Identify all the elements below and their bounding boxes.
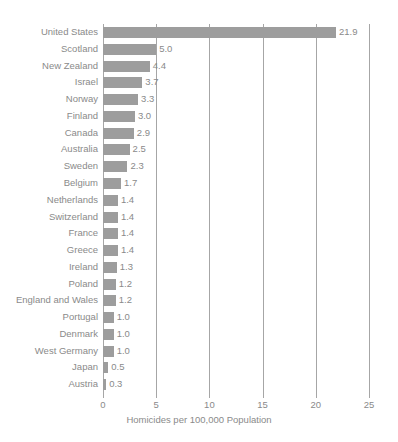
bar-value-label: 2.9 — [137, 126, 150, 140]
bar — [103, 346, 114, 357]
bar-row: 1.0 — [103, 309, 398, 327]
bar — [103, 295, 116, 306]
category-label: Portugal — [0, 310, 98, 324]
bar — [103, 262, 117, 273]
tick-mark-5 — [156, 393, 157, 398]
category-label: Scotland — [0, 42, 98, 56]
bar — [103, 245, 118, 256]
category-label: Netherlands — [0, 193, 98, 207]
bar — [103, 77, 142, 88]
bar-value-label: 1.7 — [124, 176, 137, 190]
bar-value-label: 3.3 — [141, 92, 154, 106]
x-tick-label: 0 — [88, 399, 118, 411]
bar — [103, 27, 336, 38]
bar-value-label: 1.4 — [121, 226, 134, 240]
category-label: Poland — [0, 277, 98, 291]
bars-layer: 21.95.04.43.73.33.02.92.52.31.71.41.41.4… — [103, 24, 398, 393]
bar — [103, 128, 134, 139]
x-axis-title: Homicides per 100,000 Population — [0, 414, 398, 426]
bar-value-label: 1.3 — [120, 260, 133, 274]
tick-mark-25 — [369, 393, 370, 398]
bar — [103, 379, 106, 390]
bar — [103, 94, 138, 105]
bar-row: 1.0 — [103, 343, 398, 361]
x-tick-label: 20 — [301, 399, 331, 411]
category-label: England and Wales — [0, 293, 98, 307]
bar-value-label: 1.0 — [117, 327, 130, 341]
bar-row: 3.7 — [103, 74, 398, 92]
bar-row: 1.7 — [103, 175, 398, 193]
bar — [103, 144, 130, 155]
bar-value-label: 2.5 — [133, 142, 146, 156]
category-label: West Germany — [0, 344, 98, 358]
bar-value-label: 2.3 — [130, 159, 143, 173]
bar-value-label: 1.2 — [119, 293, 132, 307]
bar-row: 3.3 — [103, 91, 398, 109]
bar-row: 1.4 — [103, 209, 398, 227]
bar-row: 2.3 — [103, 158, 398, 176]
bar — [103, 61, 150, 72]
bar-value-label: 21.9 — [339, 25, 358, 39]
bar-row: 5.0 — [103, 41, 398, 59]
tick-mark-0 — [103, 393, 104, 398]
bar-row: 21.9 — [103, 24, 398, 42]
bar-row: 4.4 — [103, 58, 398, 76]
bar — [103, 195, 118, 206]
category-label: Canada — [0, 126, 98, 140]
category-label: New Zealand — [0, 59, 98, 73]
bar-value-label: 1.0 — [117, 344, 130, 358]
bar-value-label: 1.4 — [121, 243, 134, 257]
bar-value-label: 3.0 — [138, 109, 151, 123]
bar-row: 1.4 — [103, 242, 398, 260]
category-axis-labels: United StatesScotlandNew ZealandIsraelNo… — [0, 24, 98, 393]
category-label: Finland — [0, 109, 98, 123]
bar-row: 0.5 — [103, 359, 398, 377]
category-label: Ireland — [0, 260, 98, 274]
bar-row: 1.3 — [103, 259, 398, 277]
tick-mark-15 — [263, 393, 264, 398]
x-tick-label: 25 — [354, 399, 384, 411]
bar-row: 2.5 — [103, 141, 398, 159]
bar-value-label: 0.5 — [111, 360, 124, 374]
bar — [103, 178, 121, 189]
category-label: Switzerland — [0, 210, 98, 224]
category-label: Australia — [0, 142, 98, 156]
bar-value-label: 4.4 — [153, 59, 166, 73]
bar-row: 1.2 — [103, 292, 398, 310]
category-label: Austria — [0, 377, 98, 391]
bar-row: 3.0 — [103, 108, 398, 126]
bar — [103, 279, 116, 290]
bar — [103, 312, 114, 323]
bar-value-label: 0.3 — [109, 377, 122, 391]
category-label: Sweden — [0, 159, 98, 173]
tick-mark-10 — [209, 393, 210, 398]
bar — [103, 228, 118, 239]
category-label: France — [0, 226, 98, 240]
category-label: Greece — [0, 243, 98, 257]
bar-chart: United StatesScotlandNew ZealandIsraelNo… — [0, 0, 398, 442]
bar-row: 1.2 — [103, 276, 398, 294]
tick-mark-20 — [316, 393, 317, 398]
bar — [103, 212, 118, 223]
category-label: Japan — [0, 360, 98, 374]
bar-row: 1.4 — [103, 225, 398, 243]
bar-value-label: 3.7 — [145, 75, 158, 89]
category-label: Denmark — [0, 327, 98, 341]
bar — [103, 329, 114, 340]
category-label: Norway — [0, 92, 98, 106]
category-label: Belgium — [0, 176, 98, 190]
bar-value-label: 5.0 — [159, 42, 172, 56]
bar-row: 2.9 — [103, 125, 398, 143]
bar-row: 1.0 — [103, 326, 398, 344]
category-label: Israel — [0, 75, 98, 89]
category-label: United States — [0, 25, 98, 39]
bar-value-label: 1.0 — [117, 310, 130, 324]
x-tick-label: 5 — [141, 399, 171, 411]
bar — [103, 161, 127, 172]
bar-value-label: 1.4 — [121, 193, 134, 207]
bar-row: 1.4 — [103, 192, 398, 210]
bar-value-label: 1.2 — [119, 277, 132, 291]
x-tick-label: 10 — [194, 399, 224, 411]
bar — [103, 44, 156, 55]
bar — [103, 111, 135, 122]
